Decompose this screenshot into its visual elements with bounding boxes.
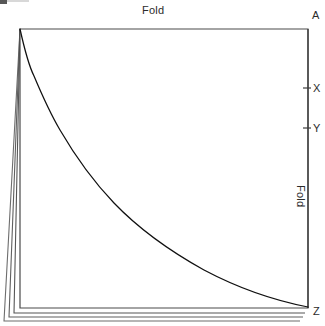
label-tick-y: Y bbox=[313, 123, 321, 134]
label-fold-top: Fold bbox=[142, 5, 164, 16]
label-corner-a: A bbox=[312, 10, 320, 21]
label-fold-right: Fold bbox=[295, 185, 306, 207]
figure-root: Fold Fold A X Y Z bbox=[0, 0, 325, 326]
page-outline-main bbox=[20, 29, 308, 308]
fold-diagram-svg bbox=[0, 0, 325, 326]
label-corner-z: Z bbox=[313, 306, 320, 317]
label-tick-x: X bbox=[313, 83, 321, 94]
